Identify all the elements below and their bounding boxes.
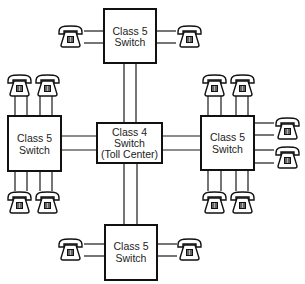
- telephone-icon: [8, 192, 31, 213]
- class5-switch-right: Class 5 Switch: [201, 116, 254, 170]
- telephone-icon: [231, 192, 254, 213]
- switch-label-line1: Class 5: [17, 132, 52, 144]
- trunk-center-left: [61, 136, 97, 150]
- telephone-icon: [36, 75, 59, 96]
- telephone-icon: [203, 75, 226, 96]
- trunk-center-top: [124, 63, 136, 123]
- class5-switch-top: Class 5 Switch: [104, 9, 156, 63]
- telephone-icon: [231, 75, 254, 96]
- telephone-icon: [8, 75, 31, 96]
- class5-switch-left: Class 5 Switch: [8, 116, 61, 171]
- telephone-icon: [276, 118, 299, 139]
- telephone-icon: [178, 26, 201, 47]
- switch-label-line2: Switch: [115, 36, 146, 48]
- switch-label-line3: (Toll Center): [101, 148, 158, 160]
- switch-label-line2: Switch: [212, 143, 243, 155]
- telephone-icon: [178, 239, 201, 260]
- switch-label-line1: Class 5: [113, 240, 148, 252]
- class5-switch-bottom: Class 5 Switch: [105, 225, 157, 280]
- switch-label-line2: Switch: [19, 144, 50, 156]
- trunk-center-bottom: [124, 163, 137, 225]
- telephone-icon: [276, 147, 299, 168]
- telephone-icon: [59, 26, 82, 47]
- telephone-icon: [203, 192, 226, 213]
- switch-label-line1: Class 5: [210, 131, 245, 143]
- telephone-icon: [36, 192, 59, 213]
- telephone-hierarchy-diagram: Class 5 Switch Class 5 Switch Class 4 Sw…: [0, 0, 305, 284]
- class4-switch-center: Class 4 Switch (Toll Center): [97, 123, 162, 163]
- switch-label-line2: Switch: [116, 252, 147, 264]
- trunk-center-right: [162, 136, 201, 150]
- telephone-icon: [59, 239, 82, 260]
